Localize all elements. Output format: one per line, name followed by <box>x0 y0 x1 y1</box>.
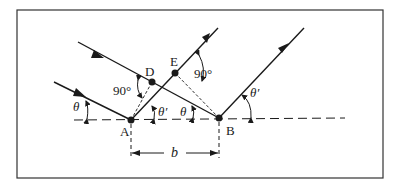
angle-arc-theta-prime-a <box>152 106 155 119</box>
diagram-canvas: A B D E θ θ′ θ θ′ 90° 90° b <box>0 0 397 186</box>
label-b: B <box>226 123 235 138</box>
angle-label-theta-b: θ <box>180 104 187 119</box>
angle-label-90-d: 90° <box>113 83 131 98</box>
angle-arc-90-d <box>138 80 143 98</box>
label-a: A <box>120 124 130 139</box>
point-a <box>128 117 135 124</box>
angle-label-90-e: 90° <box>194 66 212 81</box>
reflected-ray-b <box>219 28 304 118</box>
distance-label-b: b <box>171 145 178 160</box>
point-d <box>149 79 156 86</box>
surface-baseline <box>74 118 345 120</box>
point-e <box>172 70 179 77</box>
angle-arc-theta-left <box>86 101 88 119</box>
reflection-diagram: A B D E θ θ′ θ θ′ 90° 90° b <box>0 0 397 186</box>
angle-label-theta-prime-a: θ′ <box>158 104 167 119</box>
angle-arc-theta-b <box>192 106 194 118</box>
angle-label-theta-left: θ <box>73 99 80 114</box>
point-b <box>216 115 223 122</box>
angle-label-theta-prime-b: θ′ <box>250 85 259 100</box>
label-d: D <box>145 64 154 79</box>
label-e: E <box>170 54 178 69</box>
